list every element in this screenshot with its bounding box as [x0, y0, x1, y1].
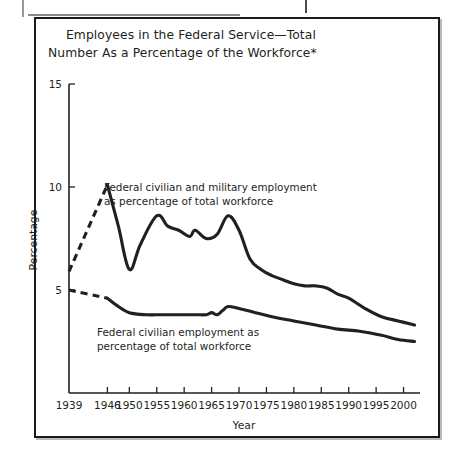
x-tick-label: 1980 — [280, 399, 307, 411]
y-tick-label: 5 — [55, 284, 62, 296]
annotation-total: Federal civilian and military employment… — [104, 181, 317, 207]
line-chart: 15105 1939194619501955196019651970197519… — [0, 0, 453, 456]
y-axis-title: Percentage — [27, 209, 40, 270]
x-tick-label: 1960 — [171, 399, 198, 411]
x-tick-label: 2000 — [390, 399, 417, 411]
x-tick-label: 1995 — [363, 399, 390, 411]
annotation-civilian: Federal civilian employment as percentag… — [97, 326, 259, 352]
series-line-3 — [69, 290, 107, 298]
x-tick-label: 1939 — [56, 399, 83, 411]
y-axis-ticks: 15105 — [49, 78, 75, 296]
figure-page: Employees in the Federal Service—Total N… — [0, 0, 453, 456]
x-tick-label: 1950 — [116, 399, 143, 411]
x-tick-label: 1965 — [198, 399, 225, 411]
x-axis-ticks: 1939194619501955196019651970197519801985… — [56, 387, 417, 411]
annotation-civilian-line-1: Federal civilian employment as — [97, 326, 259, 338]
annotation-civilian-line-2: percentage of total workforce — [97, 340, 251, 352]
annotation-total-line-2: as percentage of total workforce — [104, 195, 273, 207]
y-tick-label: 10 — [49, 181, 62, 193]
annotation-total-line-1: Federal civilian and military employment — [104, 181, 317, 193]
chart-series-group — [69, 185, 415, 342]
x-tick-label: 1975 — [253, 399, 280, 411]
x-tick-label: 1970 — [226, 399, 253, 411]
x-axis-title: Year — [232, 419, 256, 432]
series-line-1 — [69, 185, 107, 272]
x-tick-label: 1955 — [143, 399, 170, 411]
x-tick-label: 1990 — [335, 399, 362, 411]
x-tick-label: 1985 — [308, 399, 335, 411]
y-tick-label: 15 — [49, 78, 62, 90]
